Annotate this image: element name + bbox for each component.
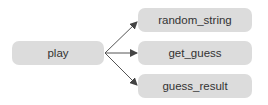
node-label: play: [47, 47, 68, 59]
node-label: random_string: [158, 14, 232, 26]
node-guess-result: guess_result: [138, 74, 252, 98]
node-label: get_guess: [168, 47, 221, 59]
node-play: play: [12, 41, 104, 65]
edge-play-random-string: [105, 22, 137, 53]
edge-play-guess-result: [105, 53, 137, 85]
node-get-guess: get_guess: [138, 41, 252, 65]
node-random-string: random_string: [138, 8, 252, 32]
node-label: guess_result: [162, 80, 227, 92]
